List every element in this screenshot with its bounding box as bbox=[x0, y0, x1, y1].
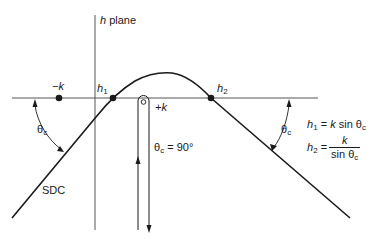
eq-h2-denominator: sin θc bbox=[329, 148, 360, 162]
eq-h2-fraction: ksin θc bbox=[329, 135, 360, 162]
plus-k-label: +k bbox=[155, 102, 167, 113]
eq-h2-numerator: k bbox=[329, 135, 360, 148]
eq-h1-sin: sin θ bbox=[336, 118, 362, 130]
h1-label-sub: 1 bbox=[103, 87, 107, 96]
eq-h1-equals: = bbox=[318, 118, 331, 130]
right-angle-label-sub: c bbox=[287, 128, 291, 137]
eq-h2-equals: = bbox=[318, 141, 327, 153]
eq-h1-sub: c bbox=[362, 123, 366, 132]
vertical-contour-label: θc = 90° bbox=[154, 142, 193, 155]
point-h1 bbox=[110, 95, 117, 102]
h2-label: h2 bbox=[217, 83, 228, 96]
vertical-contour-label-rest: = 90° bbox=[164, 141, 193, 153]
equation-h2: h2 = ksin θc bbox=[307, 135, 360, 162]
right-angle-label: θc bbox=[281, 124, 291, 137]
right-angle-arrow-top-icon bbox=[287, 99, 292, 107]
left-angle-arrow-top-icon bbox=[33, 99, 38, 107]
sdc-label: SDC bbox=[42, 185, 65, 196]
branch-point-plus-k bbox=[141, 100, 146, 105]
h2-label-sub: 2 bbox=[223, 87, 227, 96]
down-arrow-icon bbox=[147, 225, 152, 233]
eq-h2-den-sub: c bbox=[354, 153, 358, 162]
point-minus-k bbox=[56, 95, 63, 102]
eq-h2-lhs-group: h2 = bbox=[307, 142, 327, 155]
plane-label-text: plane bbox=[106, 14, 136, 26]
left-angle-label: θc bbox=[37, 124, 47, 137]
up-arrow-icon bbox=[136, 156, 141, 164]
minus-k-label: −k bbox=[52, 81, 64, 92]
eq-h2-den-text: sin θ bbox=[331, 148, 354, 160]
h1-label: h1 bbox=[97, 83, 108, 96]
equation-h1: h1 = k sin θc bbox=[307, 119, 366, 132]
plane-label: h plane bbox=[100, 15, 136, 26]
left-angle-label-sub: c bbox=[43, 128, 47, 137]
point-h2 bbox=[208, 95, 215, 102]
